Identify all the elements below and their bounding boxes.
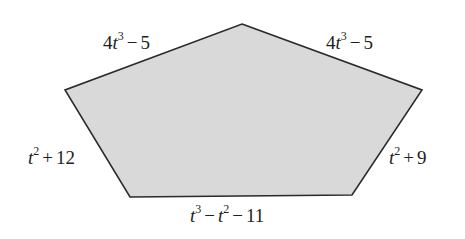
constant: 9 [417,147,427,168]
operator-1: − [201,205,218,226]
constant: 12 [56,147,75,168]
coef: 4 [326,32,336,53]
exponent-2: 2 [223,202,229,216]
constant: 5 [364,32,374,53]
operator: − [347,32,364,53]
exponent: 3 [118,29,124,43]
coef: 4 [103,32,113,53]
operator: + [400,147,417,168]
variable: t [336,32,341,53]
side-label-top-right: 4t3−5 [326,33,373,52]
side-label-top-left: 4t3−5 [103,33,150,52]
side-label-right: t2+9 [389,148,427,167]
exponent: 3 [341,29,347,43]
operator: − [124,32,141,53]
side-label-left: t2+12 [28,148,75,167]
operator: + [39,147,56,168]
exponent-1: 3 [195,202,201,216]
constant: 11 [246,205,264,226]
exponent: 2 [33,144,39,158]
exponent: 2 [394,144,400,158]
operator-2: − [229,205,246,226]
side-label-bottom: t3−t2−11 [190,206,264,225]
pentagon-diagram [0,0,465,239]
constant: 5 [141,32,151,53]
variable: t [113,32,118,53]
